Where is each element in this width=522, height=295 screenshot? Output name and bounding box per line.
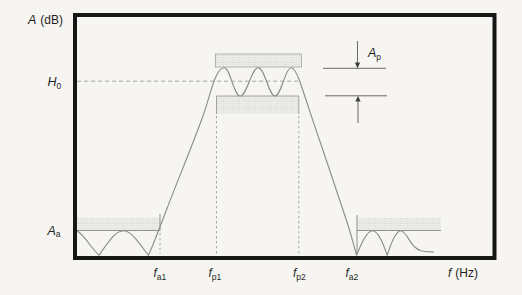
left-stopband-spec-box	[77, 218, 160, 231]
passband-upper-spec-box	[216, 54, 302, 67]
frequency-markers	[160, 214, 357, 254]
filter-spec-figure: A(dB) H0 Aa Ap fa1 fp1 fp2 fa2 f(Hz)	[0, 0, 522, 295]
spec-regions	[77, 54, 441, 231]
freq-label-fa2: fa2	[346, 266, 359, 282]
passband-lower-spec-box	[217, 96, 299, 114]
h0-label: H0	[48, 75, 62, 91]
freq-label-fa1: fa1	[154, 266, 167, 282]
x-axis-label: f(Hz)	[448, 266, 478, 280]
aa-label: Aa	[47, 224, 61, 240]
right-stopband-spec-box	[357, 218, 441, 231]
ap-down-arrow-icon	[355, 63, 360, 69]
figure-canvas: A(dB) H0 Aa Ap fa1 fp1 fp2 fa2 f(Hz)	[0, 0, 522, 295]
freq-label-fp2: fp2	[293, 266, 306, 282]
freq-label-fp1: fp1	[209, 266, 222, 282]
y-axis-label: A(dB)	[27, 13, 63, 27]
ap-label: Ap	[367, 46, 381, 62]
ap-up-arrow-icon	[355, 96, 360, 102]
